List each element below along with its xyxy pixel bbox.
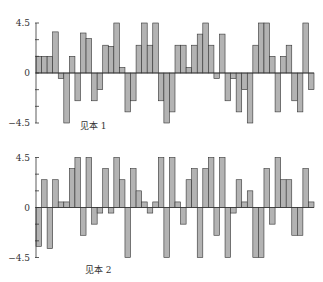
y-tick-label-bottom: −4.5 [8, 118, 30, 128]
bar [131, 73, 137, 101]
bar [308, 202, 314, 208]
bar [142, 23, 148, 73]
bar [64, 202, 70, 208]
bar [281, 180, 287, 208]
bar [164, 73, 170, 123]
bar [292, 73, 298, 101]
bar [92, 208, 98, 225]
bar [169, 158, 175, 208]
bar [125, 208, 131, 258]
bar [197, 34, 203, 73]
bar [131, 169, 137, 208]
bar [192, 169, 198, 208]
bar [297, 73, 303, 112]
bar [258, 208, 264, 258]
bar [253, 45, 259, 73]
bar [136, 45, 142, 73]
bar [219, 158, 225, 208]
y-tick-label-top: 4.5 [16, 153, 31, 163]
bar [258, 23, 264, 73]
bar [181, 45, 187, 73]
bar [281, 56, 287, 73]
bar [114, 23, 120, 73]
bar [303, 169, 309, 208]
bar [119, 180, 125, 208]
bar [103, 45, 109, 73]
bar [242, 202, 248, 208]
bar [225, 73, 231, 101]
bar [108, 208, 114, 214]
bar [158, 73, 164, 101]
bar [242, 73, 248, 90]
bar [86, 39, 92, 73]
bar [203, 23, 209, 73]
bar [119, 67, 125, 73]
bar [42, 180, 48, 208]
bar [153, 202, 159, 208]
bar [264, 23, 270, 73]
chart-sample-1: 4.5 0 −4.5 [8, 18, 314, 128]
bar [253, 208, 259, 258]
bar [247, 191, 253, 208]
bar [80, 33, 86, 73]
bar [108, 46, 114, 73]
bar [58, 73, 64, 79]
bar [153, 23, 159, 73]
bar [169, 73, 175, 112]
bar [97, 208, 103, 214]
bar [147, 45, 153, 73]
bar [97, 73, 103, 90]
bar [158, 158, 164, 208]
bar [181, 208, 187, 225]
bar [270, 208, 276, 225]
bar [53, 180, 59, 208]
bar [64, 73, 70, 123]
bar [303, 23, 309, 73]
bar [247, 73, 253, 123]
bar [75, 158, 81, 208]
bar [47, 56, 53, 73]
bar [42, 56, 48, 73]
bar [58, 202, 64, 208]
bar [308, 73, 314, 90]
bar [114, 158, 120, 208]
y-tick-label-top: 4.5 [16, 18, 31, 28]
bar [192, 45, 198, 73]
bar [236, 73, 242, 112]
bar [175, 202, 181, 208]
y-tick-label-bottom: −4.5 [8, 253, 30, 263]
bar [286, 180, 292, 208]
bar [69, 169, 75, 208]
bar [231, 208, 237, 214]
bar [186, 67, 192, 73]
chart-caption-sample-2: 见本 2 [85, 263, 112, 276]
bar [225, 208, 231, 258]
bar [164, 208, 170, 258]
bar [236, 180, 242, 208]
bar [103, 169, 109, 208]
bar [75, 73, 81, 101]
bar [147, 208, 153, 214]
bar [270, 56, 276, 73]
bar [275, 158, 281, 208]
bar [286, 45, 292, 73]
bar [86, 158, 92, 208]
bar [80, 208, 86, 236]
bar [125, 73, 131, 112]
bar [197, 208, 203, 258]
y-tick-label-zero: 0 [24, 203, 30, 213]
bar [69, 56, 75, 73]
bar [214, 73, 220, 79]
charts-canvas: 4.5 0 −4.5 4.5 0 −4.5 [0, 0, 323, 282]
bar [292, 208, 298, 236]
y-tick-label-zero: 0 [24, 68, 30, 78]
bar [208, 45, 214, 73]
chart-caption-sample-1: 见本 1 [80, 119, 107, 132]
bar [203, 169, 209, 208]
bar [231, 73, 237, 79]
bar [92, 73, 98, 101]
bar [264, 169, 270, 208]
bar [208, 158, 214, 208]
bar [214, 208, 220, 236]
bar [142, 202, 148, 208]
